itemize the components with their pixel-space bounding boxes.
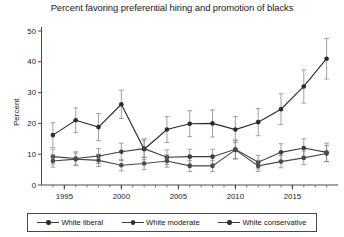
legend-item-white-moderate[interactable]: White moderate bbox=[122, 218, 200, 227]
data-point bbox=[119, 102, 124, 107]
x-tick-label: 1995 bbox=[56, 192, 74, 201]
data-point bbox=[301, 156, 306, 161]
data-point bbox=[73, 118, 78, 123]
legend-label: White liberal bbox=[61, 218, 103, 227]
data-point bbox=[301, 84, 306, 89]
y-tick-label: 50 bbox=[27, 27, 36, 36]
data-point bbox=[210, 121, 215, 126]
y-tick-label: 0 bbox=[32, 181, 37, 190]
legend-marker-icon bbox=[218, 222, 240, 223]
data-point bbox=[187, 164, 192, 169]
data-point bbox=[165, 159, 170, 164]
data-point bbox=[119, 149, 124, 154]
data-point bbox=[142, 161, 147, 166]
y-tick-label: 40 bbox=[27, 57, 36, 66]
data-point bbox=[119, 163, 124, 168]
data-point bbox=[96, 158, 101, 163]
data-point bbox=[165, 127, 170, 132]
legend-marker-icon bbox=[37, 222, 59, 223]
data-point bbox=[324, 56, 329, 61]
legend-item-white-conservative[interactable]: White conservative bbox=[218, 218, 306, 227]
data-point bbox=[279, 159, 284, 164]
data-point bbox=[51, 133, 56, 138]
legend-marker-icon bbox=[122, 222, 144, 223]
legend-label: White moderate bbox=[146, 218, 200, 227]
x-tick-label: 2010 bbox=[227, 192, 245, 201]
chart-legend: White liberal White moderate White conse… bbox=[27, 213, 317, 232]
data-point bbox=[142, 146, 147, 151]
data-point bbox=[96, 125, 101, 130]
data-point bbox=[256, 164, 261, 169]
legend-label: White conservative bbox=[242, 218, 306, 227]
data-point bbox=[279, 107, 284, 112]
data-point bbox=[73, 157, 78, 162]
y-tick-label: 30 bbox=[27, 88, 36, 97]
legend-item-white-liberal[interactable]: White liberal bbox=[37, 218, 103, 227]
data-point bbox=[233, 127, 238, 132]
chart-container: Percent favoring preferential hiring and… bbox=[0, 0, 344, 237]
data-point bbox=[210, 164, 215, 169]
x-tick-label: 2000 bbox=[113, 192, 131, 201]
data-point bbox=[233, 148, 238, 153]
data-point bbox=[210, 154, 215, 159]
plot-area: 0102030405019952000200520102015 bbox=[0, 0, 344, 237]
data-point bbox=[301, 146, 306, 151]
series-white-liberal bbox=[51, 38, 329, 159]
data-point bbox=[324, 151, 329, 156]
x-tick-label: 2005 bbox=[170, 192, 188, 201]
data-point bbox=[51, 159, 56, 164]
y-tick-label: 20 bbox=[27, 119, 36, 128]
data-point bbox=[187, 154, 192, 159]
data-point bbox=[187, 121, 192, 126]
data-point bbox=[256, 120, 261, 125]
y-tick-label: 10 bbox=[27, 150, 36, 159]
x-tick-label: 2015 bbox=[284, 192, 302, 201]
data-point bbox=[279, 150, 284, 155]
